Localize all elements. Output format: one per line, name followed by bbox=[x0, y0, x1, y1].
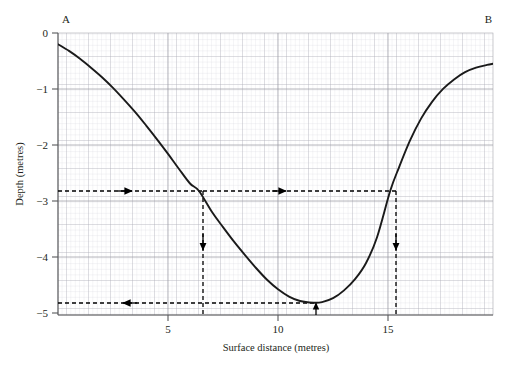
point-a-label: A bbox=[62, 13, 70, 25]
y-tick-label-1: −1 bbox=[36, 83, 48, 95]
y-tick-label-5: −5 bbox=[36, 307, 48, 319]
x-axis-title: Surface distance (metres) bbox=[223, 342, 330, 354]
y-axis-title: Depth (metres) bbox=[14, 142, 26, 206]
y-tick-label-2: −2 bbox=[36, 139, 48, 151]
chart-figure: 0 −1 −2 −3 −4 −5 5 10 15 Surface distanc… bbox=[0, 0, 526, 368]
x-tick-label-5: 5 bbox=[165, 323, 171, 335]
y-tick-label-3: −3 bbox=[36, 195, 48, 207]
plot-grid bbox=[58, 33, 493, 315]
y-tick-label-0: 0 bbox=[43, 27, 49, 39]
depth-profile-chart: 0 −1 −2 −3 −4 −5 5 10 15 Surface distanc… bbox=[0, 0, 526, 368]
x-tick-label-10: 10 bbox=[273, 323, 285, 335]
point-b-label: B bbox=[485, 13, 492, 25]
y-tick-label-4: −4 bbox=[36, 251, 48, 263]
x-tick-label-15: 15 bbox=[383, 323, 395, 335]
